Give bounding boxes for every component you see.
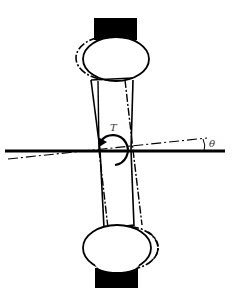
specimen-right-inner-lower <box>133 150 142 225</box>
angle-label: θ <box>209 138 215 149</box>
rotated-axis <box>8 138 207 159</box>
torque-label: T <box>110 122 118 133</box>
torsion-diagram: T θ <box>0 0 237 296</box>
top-ball-joint <box>83 37 149 81</box>
angle-arc <box>203 139 205 151</box>
specimen-right-edge-lower <box>131 150 134 226</box>
